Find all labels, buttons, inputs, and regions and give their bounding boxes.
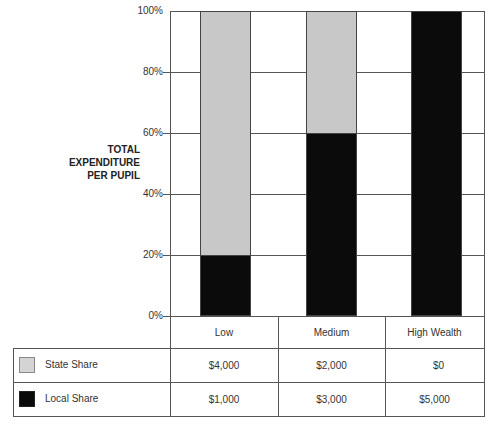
- bar-medium-state: [306, 11, 357, 134]
- bar-high-local: [411, 11, 462, 316]
- tick-mark: [163, 72, 170, 73]
- cell-local-high: $5,000: [385, 382, 484, 416]
- table-divider: [13, 348, 14, 416]
- column-header-medium: Medium: [278, 316, 385, 348]
- y-axis-label-line-2: EXPENDITURE: [40, 156, 140, 169]
- bar-low-local: [200, 255, 251, 316]
- tick-label-40: 40%: [120, 188, 163, 199]
- y-axis-line: [170, 11, 171, 316]
- plot-right-border: [484, 11, 485, 316]
- cell-state-low: $4,000: [170, 348, 278, 382]
- y-axis-label: TOTAL EXPENDITURE PER PUPIL: [40, 143, 140, 182]
- row-label-local-share: Local Share: [45, 393, 98, 404]
- cell-state-high: $0: [385, 348, 484, 382]
- table-divider: [484, 316, 485, 417]
- tick-label-0: 0%: [120, 310, 163, 321]
- tick-mark: [163, 194, 170, 195]
- cell-local-low: $1,000: [170, 382, 278, 416]
- tick-mark: [163, 133, 170, 134]
- tick-label-100: 100%: [120, 5, 163, 16]
- tick-label-80: 80%: [120, 66, 163, 77]
- cell-state-medium: $2,000: [278, 348, 385, 382]
- table-divider: [13, 348, 484, 349]
- table-divider: [13, 416, 485, 417]
- tick-mark: [163, 255, 170, 256]
- bar-medium-local: [306, 133, 357, 316]
- table-divider: [385, 316, 386, 416]
- column-header-low: Low: [170, 316, 278, 348]
- table-divider: [278, 316, 279, 416]
- tick-label-60: 60%: [120, 127, 163, 138]
- y-axis-label-line-1: TOTAL: [40, 143, 140, 156]
- tick-label-20: 20%: [120, 249, 163, 260]
- tick-mark: [163, 316, 170, 317]
- y-axis-label-line-3: PER PUPIL: [40, 169, 140, 182]
- bar-low-state: [200, 11, 251, 256]
- table-divider: [170, 316, 171, 416]
- cell-local-medium: $3,000: [278, 382, 385, 416]
- state-share-swatch-icon: [19, 357, 35, 373]
- column-header-high-wealth: High Wealth: [385, 316, 484, 348]
- table-divider: [13, 382, 484, 383]
- local-share-swatch-icon: [19, 391, 35, 407]
- row-label-state-share: State Share: [45, 359, 98, 370]
